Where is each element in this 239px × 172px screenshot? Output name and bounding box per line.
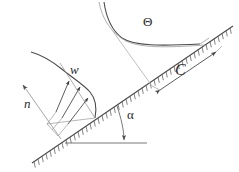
temperature-profile-label: Θ	[143, 15, 152, 28]
wall-coordinate-dimension	[152, 46, 222, 90]
velocity-profile-curve	[31, 52, 96, 118]
velocity-profile-baseline	[47, 118, 95, 124]
normal-direction-arrow	[23, 85, 61, 139]
figure-drawing	[0, 0, 239, 172]
inclination-angle-label: α	[127, 108, 134, 121]
wall-line	[32, 26, 233, 163]
velocity-profile-label: w	[70, 63, 79, 76]
temperature-profile	[99, 2, 209, 86]
angle-arc	[117, 106, 124, 140]
figure-canvas: w n C α Θ	[0, 0, 239, 172]
normal-direction-label: n	[24, 97, 31, 110]
velocity-profile	[31, 52, 96, 136]
wall-coordinate-label: C	[175, 62, 186, 78]
normal-arrow-line	[23, 85, 61, 139]
velocity-profile-arrows	[56, 81, 88, 124]
dimension-arrow-line	[160, 52, 216, 90]
wall-hatching	[34, 28, 231, 168]
dimension-extension-start	[152, 86, 160, 90]
temperature-profile-foot-line	[112, 30, 152, 86]
dimension-extension-end	[216, 46, 222, 52]
